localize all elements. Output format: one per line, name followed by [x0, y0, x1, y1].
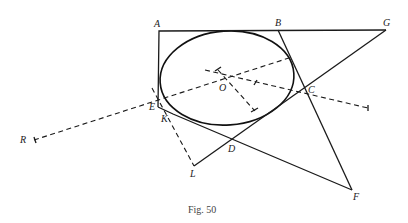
label-C: C — [308, 84, 315, 95]
label-B: B — [275, 17, 281, 28]
geometry-figure: A B G E K L D F C O R Fig. 50 — [0, 0, 408, 223]
figure-caption: Fig. 50 — [188, 204, 216, 215]
label-F: F — [352, 191, 360, 202]
label-E: E — [148, 101, 155, 112]
label-R: R — [19, 134, 26, 145]
dashed-line-E-L — [152, 88, 194, 166]
label-K: K — [160, 113, 169, 124]
dashed-line-through-O-C — [205, 70, 368, 108]
label-O: O — [219, 82, 226, 93]
tick-mark — [251, 108, 258, 112]
label-L: L — [189, 168, 196, 179]
line-G-K — [194, 30, 386, 166]
ellipse-curve — [157, 26, 297, 129]
label-A: A — [153, 18, 161, 29]
label-G: G — [383, 17, 390, 28]
dashed-line-R — [34, 57, 292, 140]
line-B-F — [278, 30, 352, 190]
label-D: D — [227, 143, 236, 154]
